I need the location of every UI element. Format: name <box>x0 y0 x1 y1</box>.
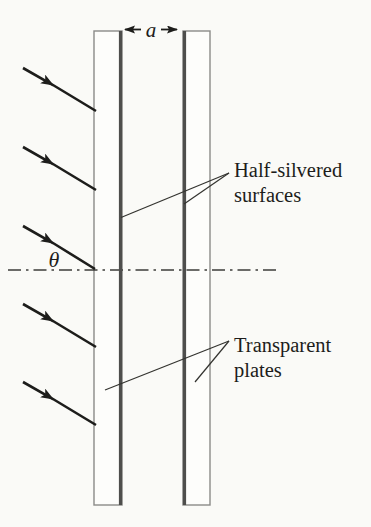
incident-rays <box>23 68 96 425</box>
half-silvered-label-line2: surfaces <box>234 184 301 206</box>
transparent-label-line1: Transparent <box>234 334 331 357</box>
incidence-angle-label: θ <box>49 247 60 272</box>
gap-dimension-label: a <box>146 18 157 42</box>
transparent-label-line2: plates <box>234 359 282 382</box>
half-silvered-leader-lines <box>121 173 229 218</box>
half-silvered-label-line1: Half-silvered <box>234 159 342 181</box>
left-transparent-plate <box>94 31 122 505</box>
right-plate-body <box>183 31 210 505</box>
incident-ray-1 <box>23 68 96 111</box>
incident-ray-4 <box>23 304 96 347</box>
etalon-diagram-svg: a θ Half-silvered surfaces Transparent p… <box>0 0 371 527</box>
half-silvered-leader-left <box>121 173 229 218</box>
half-silvered-annotation: Half-silvered surfaces <box>234 159 342 206</box>
right-transparent-plate <box>183 31 210 505</box>
left-plate-body <box>94 31 122 505</box>
etalon-figure: a θ Half-silvered surfaces Transparent p… <box>0 0 371 527</box>
incident-ray-5 <box>23 382 96 425</box>
gap-dimension: a <box>125 18 177 42</box>
incident-ray-2 <box>23 147 96 190</box>
transparent-plates-annotation: Transparent plates <box>234 334 331 382</box>
